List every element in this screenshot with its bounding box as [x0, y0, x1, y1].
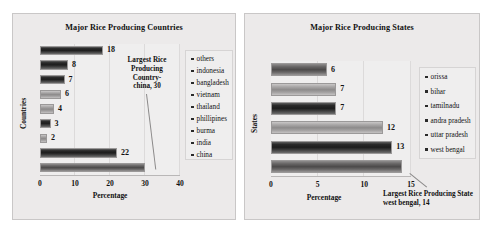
bar-value-label: 6 — [65, 90, 69, 98]
legend-label: burma — [197, 127, 215, 135]
legend-label: vietnam — [197, 91, 220, 99]
legend-swatch-icon — [191, 106, 194, 109]
legend-swatch-icon — [425, 148, 428, 151]
bar-west-bengal — [271, 160, 402, 173]
legend-item-vietnam: vietnam — [191, 92, 220, 99]
legend-label: phillipines — [197, 115, 227, 123]
chart-title-countries: Major Rice Producing Countries — [13, 23, 235, 32]
bar-orissa — [271, 63, 327, 76]
callout-line: west bengal, 14 — [383, 199, 479, 208]
legend-swatch-icon — [425, 76, 428, 79]
legend-label: india — [197, 139, 211, 147]
legend-item-andra-pradesh: andra pradesh — [425, 118, 471, 125]
bar-bangladesh — [40, 75, 65, 85]
bar-value-label: 7 — [340, 104, 344, 112]
chart-panel-states: Major Rice Producing States States 67712… — [244, 13, 480, 220]
x-tick-label: 10 — [352, 180, 376, 189]
bar-value-label: 13 — [396, 143, 404, 151]
legend-swatch-icon — [425, 134, 428, 137]
bar-value-label: 7 — [69, 76, 73, 84]
legend-swatch-icon — [191, 82, 194, 85]
legend-label: andra pradesh — [431, 117, 471, 125]
chart-panel-countries: Major Rice Producing Countries Countries… — [12, 13, 236, 220]
legend-label: tamilnadu — [431, 102, 460, 110]
legend-swatch-icon — [191, 154, 194, 157]
chart-title-states: Major Rice Producing States — [245, 23, 479, 32]
bar-india — [40, 148, 117, 158]
legend-item-thailand: thailand — [191, 104, 220, 111]
legend-item-china: china — [191, 152, 212, 159]
legend-item-orissa: orissa — [425, 74, 447, 81]
legend-item-india: india — [191, 140, 211, 147]
x-tick-label: 10 — [63, 179, 87, 188]
x-tick-label: 40 — [168, 179, 192, 188]
bar-value-label: 4 — [58, 105, 62, 113]
gridline — [410, 61, 411, 177]
callout-line: Producing — [121, 65, 173, 74]
legend-label: bangladesh — [197, 79, 229, 87]
bar-uttar-pradesh — [271, 141, 392, 154]
legend-swatch-icon — [191, 58, 194, 61]
legend-swatch-icon — [191, 142, 194, 145]
bar-vietnam — [40, 90, 61, 100]
legend-item-bangladesh: bangladesh — [191, 80, 229, 87]
bar-andra-pradesh — [271, 121, 383, 134]
legend-label: china — [197, 151, 213, 159]
bar-value-label: 8 — [72, 61, 76, 69]
legend-label: indonesia — [197, 67, 225, 75]
callout-countries: Largest Rice Producing Country- china, 3… — [121, 56, 173, 91]
legend-item-others: others — [191, 56, 214, 63]
callout-line: china, 30 — [121, 82, 173, 91]
bar-thailand — [40, 104, 54, 114]
bar-value-label: 18 — [107, 46, 115, 54]
legend-countries: othersindonesiabangladeshvietnamthailand… — [185, 50, 233, 160]
x-axis-line — [271, 176, 411, 177]
bar-indonesia — [40, 60, 68, 70]
legend-label: others — [197, 55, 215, 63]
legend-item-burma: burma — [191, 128, 215, 135]
bar-tamilnadu — [271, 102, 336, 115]
bar-burma — [40, 134, 47, 144]
bar-bihar — [271, 83, 336, 96]
callout-states: Largest Rice Producing State west bengal… — [383, 190, 479, 208]
x-axis-title-countries: Percentage — [40, 191, 180, 200]
callout-line: Largest Rice Producing State — [383, 190, 479, 199]
legend-states: orissabihartamilnaduandra pradeshuttar p… — [419, 67, 476, 159]
legend-swatch-icon — [425, 90, 428, 93]
bar-value-label: 22 — [121, 149, 129, 157]
screenshot-root: Major Rice Producing Countries Countries… — [0, 0, 490, 233]
legend-label: uttar pradesh — [431, 131, 468, 139]
legend-swatch-icon — [191, 130, 194, 133]
legend-item-west-bengal: west bengal — [425, 147, 465, 154]
legend-item-indonesia: indonesia — [191, 68, 224, 75]
x-tick-label: 0 — [259, 180, 283, 189]
legend-label: bihar — [431, 88, 446, 96]
x-axis-line — [40, 175, 180, 176]
bar-value-label: 2 — [51, 134, 55, 142]
legend-swatch-icon — [425, 105, 428, 108]
legend-swatch-icon — [191, 70, 194, 73]
legend-label: thailand — [197, 103, 220, 111]
legend-item-tamilnadu: tamilnadu — [425, 103, 459, 110]
bar-value-label: 3 — [55, 120, 59, 128]
y-axis-title-countries: Countries — [19, 90, 28, 138]
legend-item-uttar-pradesh: uttar pradesh — [425, 132, 468, 139]
x-tick-label: 30 — [133, 179, 157, 188]
legend-swatch-icon — [191, 118, 194, 121]
bar-value-label: 6 — [331, 66, 335, 74]
legend-swatch-icon — [191, 94, 194, 97]
plot-area-states: 6771213 — [271, 61, 411, 177]
bar-others — [40, 46, 103, 56]
legend-item-phillipines: phillipines — [191, 116, 227, 123]
x-tick-label: 20 — [98, 179, 122, 188]
bar-value-label: 12 — [387, 124, 395, 132]
y-axis-title-states: States — [250, 102, 259, 146]
gridline — [179, 44, 180, 176]
bar-phillipines — [40, 119, 51, 129]
legend-swatch-icon — [425, 119, 428, 122]
legend-label: west bengal — [431, 146, 465, 154]
x-tick-label: 0 — [28, 179, 52, 188]
x-axis-title-states: Percentage — [265, 193, 383, 202]
legend-label: orissa — [431, 73, 448, 81]
callout-line: Largest Rice — [121, 56, 173, 65]
